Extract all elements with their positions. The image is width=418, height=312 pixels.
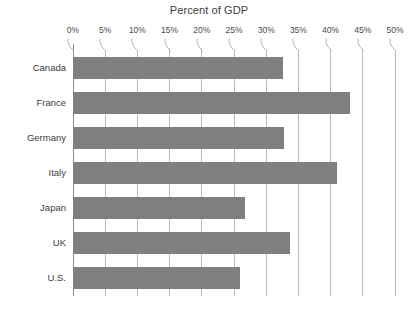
x-tick-mark-50% (389, 38, 397, 51)
x-tick-label-45%: 45% (350, 25, 376, 35)
x-tick-mark-40% (325, 38, 333, 51)
x-tick-mark-35% (292, 38, 300, 51)
category-label-france: France (0, 97, 66, 108)
category-label-u-s: U.S. (0, 272, 66, 283)
category-label-canada: Canada (0, 62, 66, 73)
category-label-uk: UK (0, 237, 66, 248)
x-tick-label-0%: 0% (60, 25, 86, 35)
x-tick-label-5%: 5% (92, 25, 118, 35)
category-label-italy: Italy (0, 167, 66, 178)
x-tick-label-25%: 25% (221, 25, 247, 35)
bar-uk (73, 232, 290, 254)
bar-canada (73, 57, 283, 79)
bar-chart: Percent of GDP 0%5%10%15%20%25%30%35%40%… (0, 0, 418, 312)
x-tick-label-50%: 50% (382, 25, 408, 35)
x-tick-label-40%: 40% (318, 25, 344, 35)
x-tick-mark-25% (228, 38, 236, 51)
bar-france (73, 92, 350, 114)
x-tick-mark-5% (99, 38, 107, 51)
x-tick-label-30%: 30% (253, 25, 279, 35)
bar-u-s (73, 267, 240, 289)
x-tick-mark-20% (196, 38, 204, 51)
x-tick-mark-30% (260, 38, 268, 51)
x-tick-mark-10% (131, 38, 139, 51)
x-tick-mark-45% (357, 38, 365, 51)
bar-italy (73, 162, 337, 184)
plot-area: 0%5%10%15%20%25%30%35%40%45%50%CanadaFra… (0, 0, 418, 312)
x-tick-mark-15% (164, 38, 172, 51)
x-tick-label-10%: 10% (124, 25, 150, 35)
x-tick-mark-0% (67, 38, 75, 51)
bar-japan (73, 197, 245, 219)
x-tick-label-20%: 20% (189, 25, 215, 35)
x-tick-label-15%: 15% (157, 25, 183, 35)
x-tick-label-35%: 35% (285, 25, 311, 35)
gridline-50% (395, 50, 396, 296)
bar-germany (73, 127, 284, 149)
gridline-45% (362, 50, 363, 296)
category-label-germany: Germany (0, 132, 66, 143)
category-label-japan: Japan (0, 202, 66, 213)
